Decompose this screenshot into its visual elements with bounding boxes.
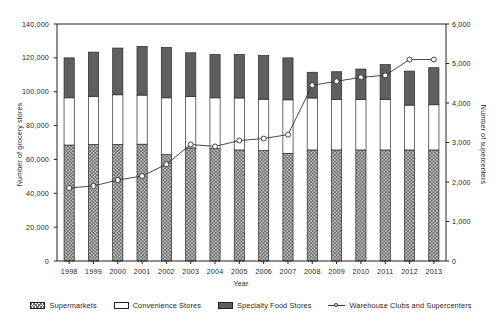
line-data-point [213, 144, 218, 149]
x-axis-tick-label: 2013 [414, 267, 454, 276]
bar-segment [113, 95, 123, 145]
bar-segment [210, 54, 220, 97]
bar-segment [64, 98, 74, 145]
legend-label-warehouse-clubs: Warehouse Clubs and Supercenters [349, 301, 471, 310]
y-axis-tick-label: 60,000 [5, 155, 49, 164]
line-data-point [67, 185, 72, 190]
line-data-point [115, 178, 120, 183]
y2-axis-tick-label: 4,000 [452, 99, 496, 108]
bar-segment [356, 150, 366, 261]
line-data-point [91, 183, 96, 188]
bar-segment [161, 98, 171, 155]
bar-segment [307, 98, 317, 150]
y2-axis-tick-label: 2,000 [452, 178, 496, 187]
chart-container: Number of grocery stores Number of super… [0, 0, 502, 320]
bar-segment [137, 144, 147, 261]
chart-legend: Supermarkets Convenience Stores Specialt… [0, 296, 502, 314]
bar-segment [259, 55, 269, 99]
bar-segment [210, 149, 220, 261]
line-data-point [383, 73, 388, 78]
y-axis-tick-label: 120,000 [5, 53, 49, 62]
bar-segment [404, 71, 414, 105]
bar-segment [307, 150, 317, 261]
bar-segment [186, 53, 196, 97]
bar-segment [186, 148, 196, 261]
bar-segment [380, 150, 390, 261]
bar-segment [113, 145, 123, 261]
y-axis-tick-label: 0 [5, 257, 49, 266]
y2-axis-tick-label: 1,000 [452, 217, 496, 226]
y2-axis-tick-label: 0 [452, 257, 496, 266]
bar-segment [234, 54, 244, 98]
line-data-point [334, 79, 339, 84]
legend-label-convenience-stores: Convenience Stores [133, 301, 201, 310]
y2-axis-tick-label: 3,000 [452, 138, 496, 147]
bar-segment [210, 98, 220, 149]
bar-segment [331, 150, 341, 261]
line-data-point [188, 142, 193, 147]
line-data-point [237, 138, 242, 143]
bar-segment [331, 72, 341, 100]
bar-segment [380, 99, 390, 150]
bar-segment [88, 145, 98, 261]
bar-segment [137, 46, 147, 95]
bar-segment [88, 96, 98, 144]
legend-item-convenience-stores: Convenience Stores [114, 301, 201, 310]
bar-segment [234, 150, 244, 261]
white-swatch-icon [114, 302, 129, 309]
y-axis-title-left: Number of grocery stores [15, 85, 24, 205]
bar-segment [161, 47, 171, 97]
x-axis-title: Year [181, 279, 301, 288]
bar-segment [429, 68, 439, 105]
y2-axis-tick-label: 5,000 [452, 59, 496, 68]
y-axis-tick-label: 40,000 [5, 189, 49, 198]
bar-segment [331, 99, 341, 150]
bar-segment [88, 52, 98, 96]
bar-segment [404, 105, 414, 150]
bar-segment [259, 99, 269, 150]
y2-axis-tick-label: 6,000 [452, 20, 496, 29]
y-axis-tick-label: 20,000 [5, 223, 49, 232]
line-data-point [310, 83, 315, 88]
legend-item-specialty-food-stores: Specialty Food Stores [218, 301, 311, 310]
bar-segment [380, 65, 390, 100]
y-axis-tick-label: 100,000 [5, 87, 49, 96]
bar-segment [186, 96, 196, 148]
bar-segment [283, 153, 293, 261]
line-data-point [261, 136, 266, 141]
bar-segment [64, 145, 74, 261]
bar-segment [64, 58, 74, 98]
legend-label-supermarkets: Supermarkets [49, 301, 96, 310]
legend-item-supermarkets: Supermarkets [30, 301, 96, 310]
y-axis-tick-label: 80,000 [5, 121, 49, 130]
bar-segment [429, 150, 439, 261]
dark-swatch-icon [218, 302, 233, 309]
line-marker-icon [328, 302, 345, 309]
bar-segment [356, 99, 366, 150]
warehouse-clubs-line [69, 60, 434, 188]
bar-segment [429, 105, 439, 150]
line-data-point [358, 75, 363, 80]
line-data-point [285, 132, 290, 137]
bar-segment [283, 58, 293, 100]
line-data-point [164, 162, 169, 167]
bar-segment [404, 150, 414, 261]
bar-segment [356, 69, 366, 99]
hatch-swatch-icon [30, 302, 45, 309]
legend-label-specialty-food-stores: Specialty Food Stores [237, 301, 311, 310]
line-data-point [431, 57, 436, 62]
line-data-point [140, 174, 145, 179]
bar-segment [161, 155, 171, 261]
legend-item-warehouse-clubs: Warehouse Clubs and Supercenters [328, 301, 471, 310]
bars-group [64, 46, 439, 261]
y-axis-tick-label: 140,000 [5, 20, 49, 29]
bar-segment [113, 48, 123, 95]
bar-segment [259, 151, 269, 261]
line-data-point [407, 57, 412, 62]
bar-segment [137, 95, 147, 144]
